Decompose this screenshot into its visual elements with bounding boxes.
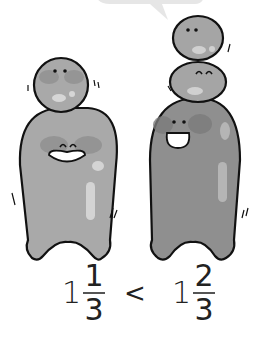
comparison-right: 1 2 3 [172, 258, 215, 328]
numerator: 2 [195, 261, 214, 291]
denominator: 3 [195, 295, 214, 325]
numerator: 1 [85, 261, 104, 291]
denominator: 3 [85, 295, 104, 325]
less-than-sign: < [124, 278, 146, 308]
fraction: 1 3 [83, 261, 105, 325]
comparison-left: 1 1 3 [62, 258, 105, 328]
fraction: 2 3 [193, 261, 215, 325]
whole-number: 1 [62, 278, 81, 308]
whole-number: 1 [172, 278, 191, 308]
right-figure [150, 16, 248, 260]
comparison-operator: < [124, 258, 146, 328]
left-figure [12, 58, 117, 260]
